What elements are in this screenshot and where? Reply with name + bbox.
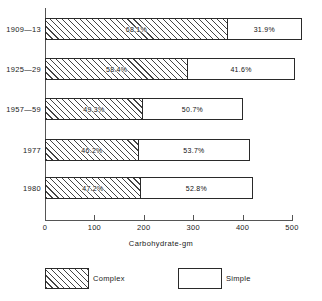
x-tick-label: 400 <box>236 223 249 232</box>
bar-row: 1925—2958.4%41.6% <box>45 58 295 80</box>
legend-swatch-simple-icon <box>178 268 222 289</box>
legend-swatch-complex-icon <box>45 268 89 289</box>
bar-row-category-label: 1977 <box>23 146 41 155</box>
bar-segment-simple-value: 41.6% <box>229 66 252 73</box>
bar-segment-simple-value: 52.8% <box>185 185 208 192</box>
bar-row: 1957—5949.3%50.7% <box>45 98 243 120</box>
bar-segment-complex-value: 47.2% <box>81 185 104 192</box>
legend-item-simple: Simple <box>178 268 251 289</box>
x-tick-mark <box>45 215 46 221</box>
bar-segment-complex: 47.2% <box>45 177 141 199</box>
bar-segment-complex: 49.3% <box>45 98 143 120</box>
x-axis-title: Carbohydrate-gm <box>0 239 322 248</box>
bar-segment-complex-value: 46.2% <box>80 147 103 154</box>
chart-legend: Complex Simple <box>0 262 322 301</box>
x-tick-mark <box>243 215 244 221</box>
x-tick-label: 100 <box>88 223 101 232</box>
bar-segment-simple-value: 53.7% <box>182 147 205 154</box>
bar-segment-simple: 53.7% <box>139 139 250 161</box>
bar-segment-complex: 46.2% <box>45 139 139 161</box>
carbohydrate-stacked-bar-chart: 0100200300400500 1909—1368.1%31.9%1925—2… <box>0 0 322 301</box>
bar-segment-complex: 58.4% <box>45 58 188 80</box>
bar-row: 198047.2%52.8% <box>45 177 253 199</box>
x-tick-label: 0 <box>43 223 47 232</box>
x-axis-line <box>45 220 293 221</box>
legend-label-complex: Complex <box>93 274 125 283</box>
bar-segment-simple: 41.6% <box>188 58 295 80</box>
plot-area: 0100200300400500 1909—1368.1%31.9%1925—2… <box>0 0 322 225</box>
x-tick-mark <box>94 215 95 221</box>
bar-row-category-label: 1980 <box>23 184 41 193</box>
bar-row: 1909—1368.1%31.9% <box>45 18 302 40</box>
bar-segment-complex-value: 49.3% <box>82 106 105 113</box>
bar-segment-complex-value: 58.4% <box>105 66 128 73</box>
bar-row-category-label: 1925—29 <box>6 65 41 74</box>
x-tick-mark <box>292 215 293 221</box>
bar-row: 197746.2%53.7% <box>45 139 250 161</box>
bar-segment-complex-value: 68.1% <box>125 26 148 33</box>
legend-label-simple: Simple <box>226 274 251 283</box>
bar-segment-simple: 50.7% <box>143 98 243 120</box>
bar-segment-simple-value: 50.7% <box>181 106 204 113</box>
bar-segment-simple-value: 31.9% <box>253 26 276 33</box>
x-tick-label: 200 <box>137 223 150 232</box>
bar-segment-simple: 52.8% <box>141 177 253 199</box>
bar-segment-complex: 68.1% <box>45 18 228 40</box>
x-tick-label: 500 <box>285 223 298 232</box>
legend-item-complex: Complex <box>45 268 125 289</box>
x-tick-mark <box>144 215 145 221</box>
bar-row-category-label: 1957—59 <box>6 105 41 114</box>
x-tick-label: 300 <box>186 223 199 232</box>
bar-segment-simple: 31.9% <box>228 18 302 40</box>
bar-row-category-label: 1909—13 <box>6 25 41 34</box>
x-tick-mark <box>193 215 194 221</box>
